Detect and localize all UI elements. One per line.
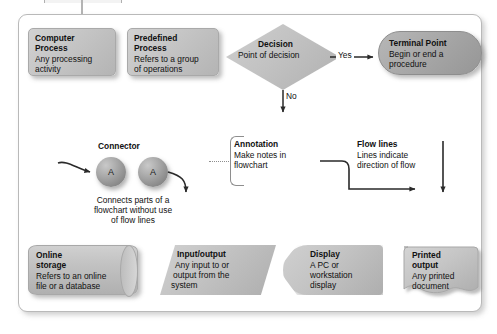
flowchart-symbols-diagram: Computer Process Any processing activity… [0, 0, 497, 334]
printed-output-line-2: document [412, 282, 449, 292]
printed-output-title2: output [412, 261, 438, 271]
